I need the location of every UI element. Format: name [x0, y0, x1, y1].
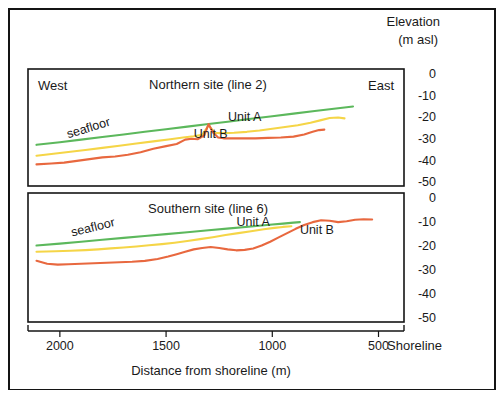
annotation-northern-unit-a: Unit A	[228, 110, 262, 124]
ytick-southern--10: -10	[418, 215, 436, 229]
elevation-axis-units: (m asl)	[398, 32, 438, 47]
ytick-southern--20: -20	[418, 239, 436, 253]
ytick-northern--20: -20	[418, 110, 436, 124]
ytick-northern--50: -50	[418, 175, 436, 189]
west-label: West	[38, 78, 68, 93]
ytick-northern--10: -10	[418, 89, 436, 103]
xtick-label-2000: 2000	[46, 339, 74, 353]
cross-section-chart: Northern site (line 2)WestEastseafloorUn…	[0, 0, 504, 398]
panel-title-northern: Northern site (line 2)	[149, 77, 267, 92]
ytick-northern-0: 0	[429, 67, 436, 81]
ytick-southern--50: -50	[418, 311, 436, 325]
x-axis-title: Distance from shoreline (m)	[131, 363, 291, 378]
shoreline-label: Shoreline	[387, 338, 442, 353]
xtick-label-500: 500	[368, 339, 389, 353]
ytick-northern--30: -30	[418, 132, 436, 146]
annotation-northern-unit-b: Unit B	[194, 127, 228, 141]
ytick-northern--40: -40	[418, 154, 436, 168]
annotation-southern-unit-b: Unit B	[300, 223, 334, 237]
figure-root: Northern site (line 2)WestEastseafloorUn…	[0, 0, 504, 398]
east-label: East	[368, 78, 394, 93]
ytick-southern-0: 0	[429, 191, 436, 205]
annotation-southern-unit-a: Unit A	[236, 215, 270, 229]
elevation-axis-title-line1: Elevation	[387, 14, 440, 29]
panel-title-southern: Southern site (line 6)	[148, 201, 268, 216]
xtick-label-1500: 1500	[152, 339, 180, 353]
xtick-label-1000: 1000	[258, 339, 286, 353]
ytick-southern--30: -30	[418, 263, 436, 277]
ytick-southern--40: -40	[418, 287, 436, 301]
